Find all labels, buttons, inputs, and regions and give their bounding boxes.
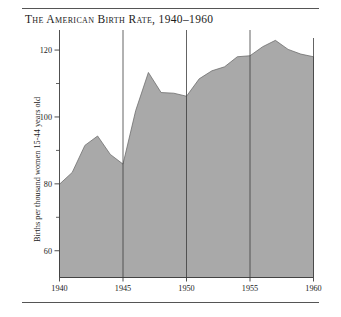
x-tick-label-1945: 1945 <box>115 284 131 293</box>
x-tick-group: 19401945195019551960 <box>51 278 321 294</box>
area-chart-plot: 6080100120 19401945195019551960 <box>0 0 341 317</box>
y-tick-group: 6080100120 <box>40 46 60 256</box>
y-tick-label-100: 100 <box>40 113 52 122</box>
y-tick-label-60: 60 <box>44 247 52 256</box>
bottom-rule <box>22 302 319 303</box>
figure: The American Birth Rate, 1940–1960 Birth… <box>0 0 341 317</box>
y-tick-label-80: 80 <box>44 180 52 189</box>
x-tick-label-1940: 1940 <box>51 284 67 293</box>
x-tick-label-1960: 1960 <box>305 284 321 293</box>
x-tick-label-1955: 1955 <box>242 284 258 293</box>
y-tick-label-120: 120 <box>40 46 52 55</box>
x-tick-label-1950: 1950 <box>178 284 194 293</box>
